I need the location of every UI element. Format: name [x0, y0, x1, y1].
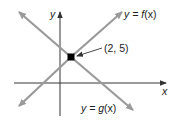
point-label: (2, 5) [104, 42, 129, 54]
intersection-point [68, 54, 75, 61]
line-f-label: y = f(x) [123, 8, 156, 20]
line-f-lower [19, 57, 71, 106]
x-axis-label: x [161, 85, 168, 97]
y-axis-label: y [49, 8, 56, 20]
graph-canvas: y x (2, 5) y = f(x) y = g(x) [0, 0, 174, 122]
line-g-upper [19, 12, 71, 57]
line-g-label: y = g(x) [80, 102, 116, 114]
